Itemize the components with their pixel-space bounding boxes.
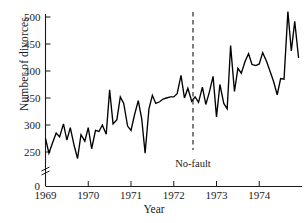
y-axis-tick-label: 350 <box>24 92 41 104</box>
y-axis-tick-label: 300 <box>24 119 41 131</box>
divorce-timeseries-figure: Number of divorces Year 2503003504004505… <box>0 0 308 223</box>
chart-canvas: 250300350400450500 196919701971197219731… <box>0 0 308 223</box>
no-fault-annotation-label: No-fault <box>175 158 211 169</box>
y-axis-tick-group: 250300350400450500 <box>24 11 51 158</box>
x-axis-tick-label: 1971 <box>120 189 142 201</box>
y-axis-tick-label: 400 <box>24 65 41 77</box>
x-axis-tick-group: 196919701971197219731974 <box>35 181 271 201</box>
x-axis-tick-label: 1970 <box>77 189 100 201</box>
y-axis-tick-label: 500 <box>24 11 41 23</box>
x-axis-tick-label: 1974 <box>248 189 271 201</box>
annotation-group: No-fault <box>175 12 211 169</box>
y-axis-tick-label: 250 <box>24 146 41 158</box>
y-axis-tick-label: 450 <box>24 38 41 50</box>
x-axis-tick-label: 1973 <box>206 189 229 201</box>
divorce-count-line <box>46 12 299 159</box>
y-axis-zero-label: 0 <box>35 180 41 192</box>
x-axis-tick-label: 1972 <box>163 189 185 201</box>
